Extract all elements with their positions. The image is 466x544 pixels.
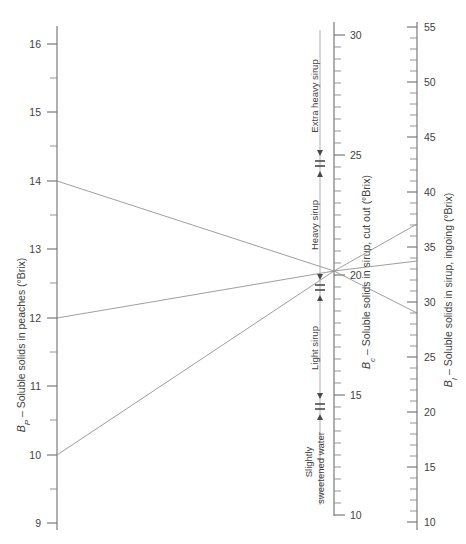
cutout-major-ticks: 30 25 20 15 10	[334, 29, 362, 521]
ingoing-tick-label: 15	[424, 461, 436, 473]
cutout-tick-label: 15	[350, 389, 362, 401]
ingoing-major-ticks: 55 50 45 40 35 30 25 20 15 10	[407, 21, 436, 528]
category-label-extra-heavy-sirup: Extra heavy sirup	[309, 59, 320, 132]
ingoing-tick-label: 10	[424, 516, 436, 528]
peaches-axis-group: 16 15 14 13 12 11 10 9 BP – Soluble soli…	[15, 26, 57, 530]
category-label-slightly-sweetened-water-line2: sweetened water	[315, 432, 326, 504]
ingoing-axis-group: 55 50 45 40 35 30 25 20 15 10 BI – Solub…	[407, 21, 459, 530]
peaches-tick-label: 10	[29, 449, 41, 461]
peaches-major-ticks: 16 15 14 13 12 11 10 9	[29, 38, 57, 529]
cutout-tick-label: 30	[350, 29, 362, 41]
peaches-tick-label: 14	[29, 175, 41, 187]
category-label-light-sirup: Light sirup	[309, 326, 320, 370]
cutout-axis-title: Bc – Soluble solids in sirup, cut out (°…	[360, 175, 377, 369]
peaches-tick-label: 9	[35, 517, 41, 529]
ingoing-tick-label: 25	[424, 351, 436, 363]
ingoing-tick-label: 55	[424, 21, 436, 33]
ingoing-tick-label: 40	[424, 186, 436, 198]
ingoing-tick-label: 50	[424, 76, 436, 88]
cutout-tick-label: 10	[350, 509, 362, 521]
ingoing-minor-ticks	[410, 38, 417, 511]
peaches-tick-label: 13	[29, 243, 41, 255]
cutout-axis-group: 30 25 20 15 10 Bc – Soluble solids in si…	[334, 22, 377, 521]
peaches-tick-label: 16	[29, 38, 41, 50]
ingoing-tick-label: 20	[424, 406, 436, 418]
category-label-slightly-sweetened-water-line1: Slightly	[303, 446, 314, 477]
ingoing-tick-label: 30	[424, 296, 436, 308]
ingoing-tick-label: 45	[424, 131, 436, 143]
peaches-minor-ticks	[50, 78, 57, 489]
nomogram-figure: 16 15 14 13 12 11 10 9 BP – Soluble soli…	[0, 0, 466, 544]
ingoing-tick-label: 35	[424, 241, 436, 253]
peaches-axis-title: BP – Soluble solids in peaches (°Brix)	[15, 258, 32, 433]
peaches-tick-label: 15	[29, 106, 41, 118]
peaches-tick-label: 11	[30, 380, 41, 392]
ingoing-axis-title: BI – Soluble solids in sirup, ingoing (°…	[442, 193, 459, 387]
peaches-tick-label: 12	[29, 312, 41, 324]
cutout-tick-label: 25	[350, 149, 362, 161]
category-label-heavy-sirup: Heavy sirup	[309, 200, 320, 250]
